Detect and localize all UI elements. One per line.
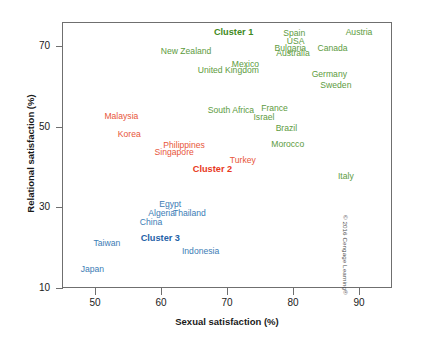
data-point-label: Italy <box>338 171 354 180</box>
data-point-label: Austria <box>346 27 373 36</box>
data-point-label: South Africa <box>208 106 254 115</box>
cluster-annotation-label: Cluster 1 <box>214 28 253 37</box>
data-point-label: Thailand <box>173 209 206 218</box>
scatter-plot-figure: Relational satisfaction (%) Sexual satis… <box>0 0 425 338</box>
x-axis-tick-label: 70 <box>212 297 242 308</box>
x-axis-tick <box>95 288 96 295</box>
data-point-label: Malaysia <box>104 112 138 121</box>
data-point-label: Israel <box>253 113 274 122</box>
y-axis-tick-label: 10 <box>20 282 50 293</box>
x-axis-tick-label: 60 <box>146 297 176 308</box>
data-point-label: Sweden <box>320 81 351 90</box>
y-axis-tick-label: 30 <box>20 201 50 212</box>
y-axis-title: Relational satisfaction (%) <box>25 64 36 244</box>
data-point-label: Turkey <box>230 156 256 165</box>
y-axis-tick <box>56 288 63 289</box>
data-point-label: Indonesia <box>182 247 219 256</box>
data-point-label: Australia <box>276 49 309 58</box>
x-axis-tick <box>359 288 360 295</box>
data-point-label: Morocco <box>271 140 304 149</box>
data-point-label: Taiwan <box>94 239 121 248</box>
copyright-credit: © 2016 Cengage Learning® <box>342 215 349 335</box>
y-axis-tick-label: 70 <box>20 40 50 51</box>
data-point-label: New Zealand <box>161 46 212 55</box>
x-axis-tick <box>293 288 294 295</box>
data-point-label: China <box>140 217 162 226</box>
data-point-label: Korea <box>118 129 141 138</box>
x-axis-tick <box>161 288 162 295</box>
data-point-label: Japan <box>81 265 104 274</box>
cluster-annotation-label: Cluster 2 <box>193 166 232 175</box>
x-axis-tick-label: 80 <box>278 297 308 308</box>
x-axis-tick-label: 50 <box>80 297 110 308</box>
data-point-label: Singapore <box>155 148 194 157</box>
data-point-label: Germany <box>312 69 347 78</box>
data-point-label: Brazil <box>276 124 298 133</box>
data-point-label: United Kingdom <box>198 66 259 75</box>
x-axis-tick <box>227 288 228 295</box>
data-point-label: Canada <box>318 44 348 53</box>
y-axis-tick-label: 50 <box>20 121 50 132</box>
cluster-annotation-label: Cluster 3 <box>141 235 180 244</box>
